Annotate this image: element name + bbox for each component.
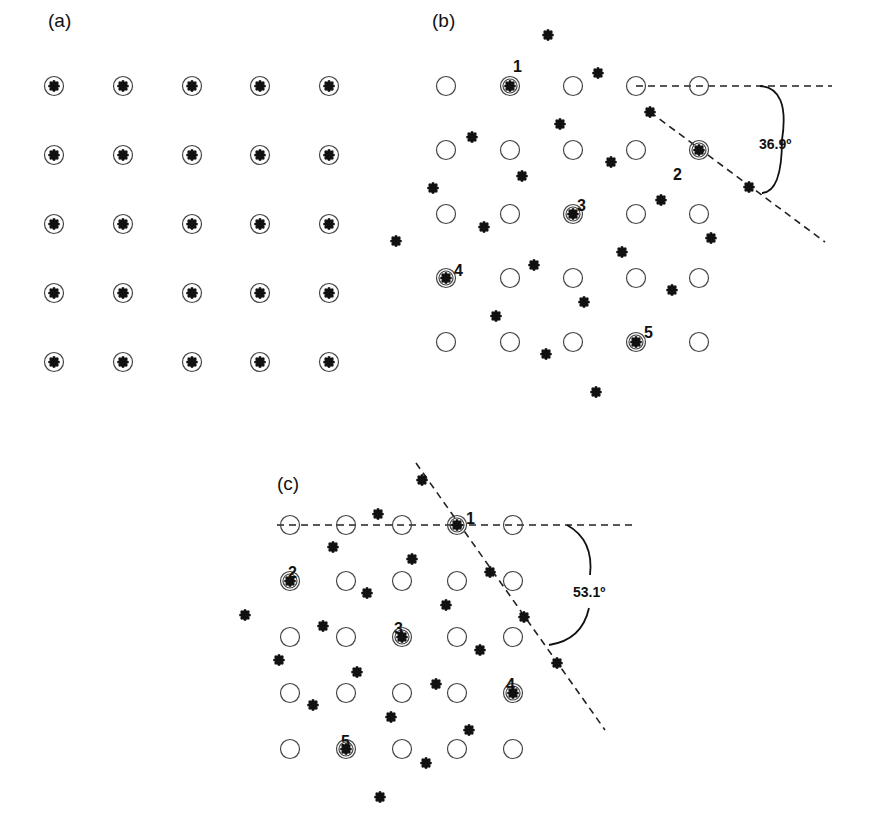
coincident-atom-icon [254,80,266,92]
coincident-atom-icon [254,218,266,230]
rotated-atom-icon [516,170,528,182]
rotated-atom-icon [528,259,540,271]
coincident-atom-icon [323,356,335,368]
rotated-atom-icon [542,29,554,41]
coincident-atom-icon [186,80,198,92]
coincident-atom-icon [254,149,266,161]
panel-label: (a) [48,10,71,31]
coincidence-number: 5 [341,733,350,750]
lattice-site-icon [393,572,412,591]
lattice-site-icon [448,572,467,591]
rotated-atom-icon [273,654,285,666]
rotation-angle-label: 53.1º [573,584,605,600]
rotated-atom-icon [518,611,530,623]
rotated-atom-icon [605,156,617,168]
rotated-atom-icon [317,620,329,632]
coincidence-number: 3 [394,620,403,637]
coincident-atom-icon [630,336,642,348]
rotated-atom-icon [551,657,563,669]
lattice-site-icon [627,269,646,288]
lattice-site-icon [564,77,583,96]
coincident-atom-icon [48,218,60,230]
coincident-atom-icon [186,287,198,299]
rotated-atom-icon [554,118,566,130]
lattice-site-icon [337,572,356,591]
coincidence-number: 2 [288,564,297,581]
rotated-atom-icon [361,587,373,599]
coincident-atom-icon [186,218,198,230]
panel-a: (a) [45,10,339,372]
coincident-atom-icon [117,80,129,92]
lattice-site-icon [448,684,467,703]
lattice-site-icon [437,77,456,96]
coincident-atom-icon [48,287,60,299]
rotated-atom-icon [239,609,251,621]
lattice-site-icon [690,269,709,288]
coincident-atom-icon [186,356,198,368]
lattice-site-icon [504,740,523,759]
lattice-site-icon [448,628,467,647]
lattice-site-icon [690,333,709,352]
lattice-site-icon [504,572,523,591]
coincident-atom-icon [117,287,129,299]
rotated-atom-icon [440,599,452,611]
coincidence-number: 2 [673,166,682,183]
rotated-atom-icon [484,566,496,578]
lattice-site-icon [564,141,583,160]
rotated-atom-icon [466,131,478,143]
lattice-site-icon [393,684,412,703]
rotation-angle-label: 36.9º [759,136,791,152]
panel-b: (b)1234536.9º [390,10,832,398]
lattice-site-icon [627,205,646,224]
coincident-atom-icon [254,356,266,368]
coincident-atom-icon [48,356,60,368]
rotated-atom-icon [351,666,363,678]
rotated-atom-icon [327,541,339,553]
coincident-atom-icon [693,144,705,156]
lattice-site-icon [337,628,356,647]
lattice-site-icon [564,333,583,352]
rotated-atom-icon [540,348,552,360]
rotated-atom-icon [406,553,418,565]
lattice-site-icon [437,333,456,352]
rotated-atom-icon [390,235,402,247]
coincident-atom-icon [323,149,335,161]
rotated-atom-icon [616,246,628,258]
lattice-site-icon [393,740,412,759]
rotated-atom-icon [372,508,384,520]
coincident-atom-icon [323,287,335,299]
lattice-site-icon [437,205,456,224]
rotated-atom-icon [655,194,667,206]
lattice-site-icon [501,205,520,224]
coincident-atom-icon [504,80,516,92]
rotated-atom-icon [478,221,490,233]
csl-lattice-figure: (a) (b)1234536.9º (c)1234553.1º [0,0,876,823]
coincident-atom-icon [440,272,452,284]
lattice-site-icon [281,684,300,703]
rotated-atom-icon [474,644,486,656]
rotated-atom-icon [416,474,428,486]
rotated-atom-icon [743,181,755,193]
rotated-atom-icon [590,386,602,398]
rotated-atom-icon [430,678,442,690]
panel-label: (c) [277,473,299,494]
coincident-atom-icon [254,287,266,299]
rotated-atom-icon [705,232,717,244]
panel-c: (c)1234553.1º [239,463,637,803]
lattice-site-icon [281,740,300,759]
coincidence-number: 1 [466,510,475,527]
rotated-atom-icon [427,182,439,194]
coincidence-number: 4 [506,676,515,693]
rotated-atom-icon [578,296,590,308]
coincident-atom-icon [323,218,335,230]
coincident-atom-icon [117,218,129,230]
coincidence-number: 5 [644,324,653,341]
coincidence-number: 3 [577,197,586,214]
coincident-atom-icon [186,149,198,161]
panel-label: (b) [432,10,455,31]
rotated-atom-icon [420,757,432,769]
rotated-atom-icon [385,711,397,723]
lattice-site-icon [501,333,520,352]
lattice-site-icon [564,269,583,288]
rotated-atom-icon [463,724,475,736]
